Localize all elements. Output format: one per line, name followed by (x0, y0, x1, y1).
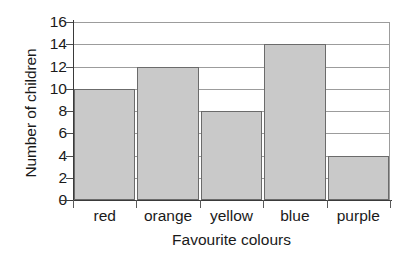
y-axis-tick-mark (66, 133, 73, 134)
y-axis-tick-label: 12 (36, 59, 67, 75)
y-axis-tick-labels: 0246810121416 (36, 22, 67, 200)
bar-red (74, 89, 135, 200)
x-axis-tick-labels: redorangeyellowbluepurple (73, 206, 390, 228)
x-axis-end-tick-right (390, 200, 391, 208)
bar-chart: Number of children 0246810121416 redoran… (0, 0, 410, 261)
y-axis-line (73, 20, 74, 201)
y-axis-tick-mark (66, 67, 73, 68)
bar-blue (264, 44, 325, 200)
y-axis-tick-label: 10 (36, 81, 67, 97)
bar-yellow (201, 111, 262, 200)
y-axis-tick-label: 14 (36, 37, 67, 53)
y-axis-tick-label: 16 (36, 14, 67, 30)
y-axis-tick-mark (66, 178, 73, 179)
y-axis-tick-mark (66, 89, 73, 90)
x-axis-tick-label-blue: blue (263, 206, 326, 226)
x-axis-title: Favourite colours (73, 231, 390, 249)
x-axis-line (60, 200, 392, 201)
y-axis-tick-mark (66, 156, 73, 157)
y-axis-tick-label: 4 (36, 148, 67, 164)
y-axis-tick-label: 2 (36, 170, 67, 186)
bar-orange (137, 67, 198, 201)
x-axis-tick-label-red: red (73, 206, 136, 226)
y-axis-tick-mark (66, 22, 73, 23)
x-axis-tick-label-orange: orange (136, 206, 199, 226)
x-axis-tick-label-purple: purple (327, 206, 390, 226)
y-axis-tick-mark (66, 44, 73, 45)
y-axis-tick-label: 8 (36, 103, 67, 119)
x-axis-tick-label-yellow: yellow (200, 206, 263, 226)
y-axis-tick-label: 6 (36, 126, 67, 142)
y-axis-tick-mark (66, 111, 73, 112)
bars-group (73, 22, 390, 200)
bar-purple (328, 156, 389, 201)
